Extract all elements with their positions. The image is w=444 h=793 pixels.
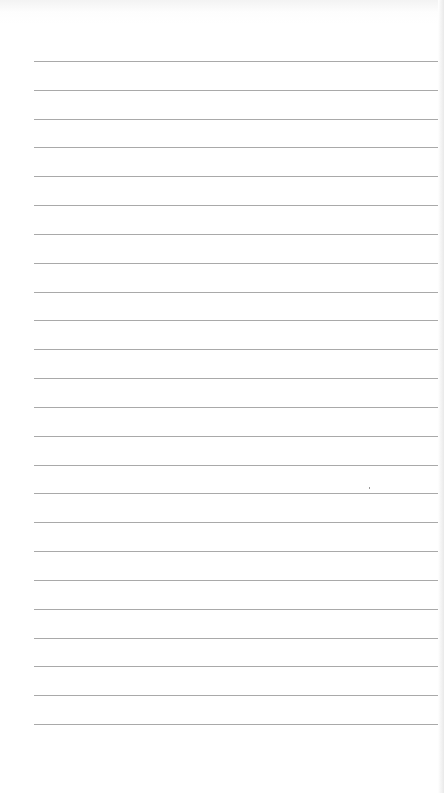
ruled-line <box>34 493 440 494</box>
ruled-line <box>34 263 440 264</box>
ruled-line <box>34 638 440 639</box>
ruled-line <box>34 551 440 552</box>
ruled-line <box>34 234 440 235</box>
ruled-line <box>34 119 440 120</box>
paper-speck <box>369 487 370 489</box>
ruled-line <box>34 349 440 350</box>
ruled-line <box>34 205 440 206</box>
ruled-line <box>34 407 440 408</box>
ruled-line <box>34 580 440 581</box>
ruled-line <box>34 147 440 148</box>
ruled-line <box>34 724 440 725</box>
ruled-line <box>34 522 440 523</box>
ruled-line <box>34 292 440 293</box>
ruled-line <box>34 666 440 667</box>
ruled-line <box>34 436 440 437</box>
ruled-line <box>34 695 440 696</box>
ruled-line <box>34 320 440 321</box>
ruled-line <box>34 378 440 379</box>
paper-right-edge <box>438 0 444 793</box>
ruled-line <box>34 609 440 610</box>
lined-paper-page <box>0 0 444 793</box>
ruled-line <box>34 465 440 466</box>
ruled-line <box>34 176 440 177</box>
ruled-line <box>34 90 440 91</box>
ruled-line <box>34 61 440 62</box>
